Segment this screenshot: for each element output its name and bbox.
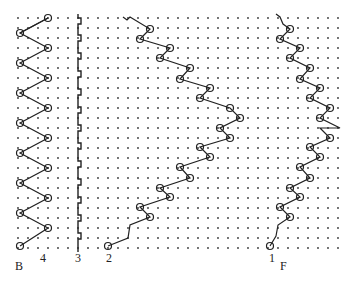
label-stitch-2: 2 <box>106 251 112 266</box>
label-b: B <box>15 259 23 274</box>
label-stitch-1: 1 <box>269 251 275 266</box>
stitch-1-diagonal <box>267 14 341 250</box>
label-stitch-3: 3 <box>75 251 81 266</box>
stitch-diagram <box>0 0 358 289</box>
stitch-3-steps <box>78 14 81 252</box>
label-stitch-4: 4 <box>40 251 46 266</box>
label-f: F <box>280 259 287 274</box>
stitch-4-zigzag <box>17 15 52 250</box>
stitch-2-diagonal <box>105 17 244 250</box>
